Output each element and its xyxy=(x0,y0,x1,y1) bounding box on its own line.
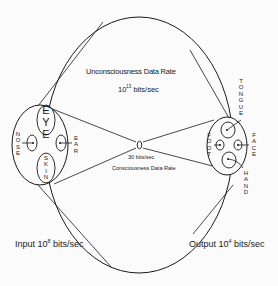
output-rate-label: Output 104 bits/sec xyxy=(189,240,265,249)
input-upper-arc xyxy=(38,22,103,106)
input-rate-prefix: Input 10 xyxy=(15,239,48,249)
output-rate-prefix: Output 10 xyxy=(189,239,229,249)
input-rate-exponent: 8 xyxy=(48,238,51,244)
consciousness-title: Consciousness Data Rate xyxy=(112,166,176,172)
consciousness-node xyxy=(137,141,142,149)
foot-label: FOOT xyxy=(205,132,213,158)
unconsciousness-rate-exponent: 13 xyxy=(126,84,131,89)
hand-label: HAND xyxy=(242,170,250,196)
output-lower-arc xyxy=(193,185,233,234)
skin-label: SKIN xyxy=(42,155,50,181)
nose-dot xyxy=(32,142,34,144)
input-lower-arc xyxy=(38,185,112,268)
face-label: FACE xyxy=(250,132,258,158)
tongue-label: TONGUE xyxy=(237,78,245,116)
ear-label: EAR xyxy=(72,135,80,154)
output-organs-ellipse xyxy=(207,117,247,175)
output-upper-arc xyxy=(190,50,233,125)
output-cone-top xyxy=(143,120,214,142)
input-rate-label: Input 108 bits/sec xyxy=(15,240,84,249)
ear-dot xyxy=(59,142,61,144)
unconsciousness-rate: 1013 bits/sec xyxy=(118,86,159,94)
eye-label: EYE xyxy=(40,104,52,140)
output-rate-unit: bits/sec xyxy=(232,239,265,249)
unconsciousness-title: Unconsciousness Data Rate xyxy=(86,68,176,76)
nose-label: NOSE xyxy=(14,131,22,157)
unconsciousness-rate-unit: bits/sec xyxy=(131,85,159,94)
output-rate-exponent: 4 xyxy=(229,238,232,244)
input-rate-unit: bits/sec xyxy=(51,239,84,249)
consciousness-rate: 30 bits/sec xyxy=(128,155,154,161)
